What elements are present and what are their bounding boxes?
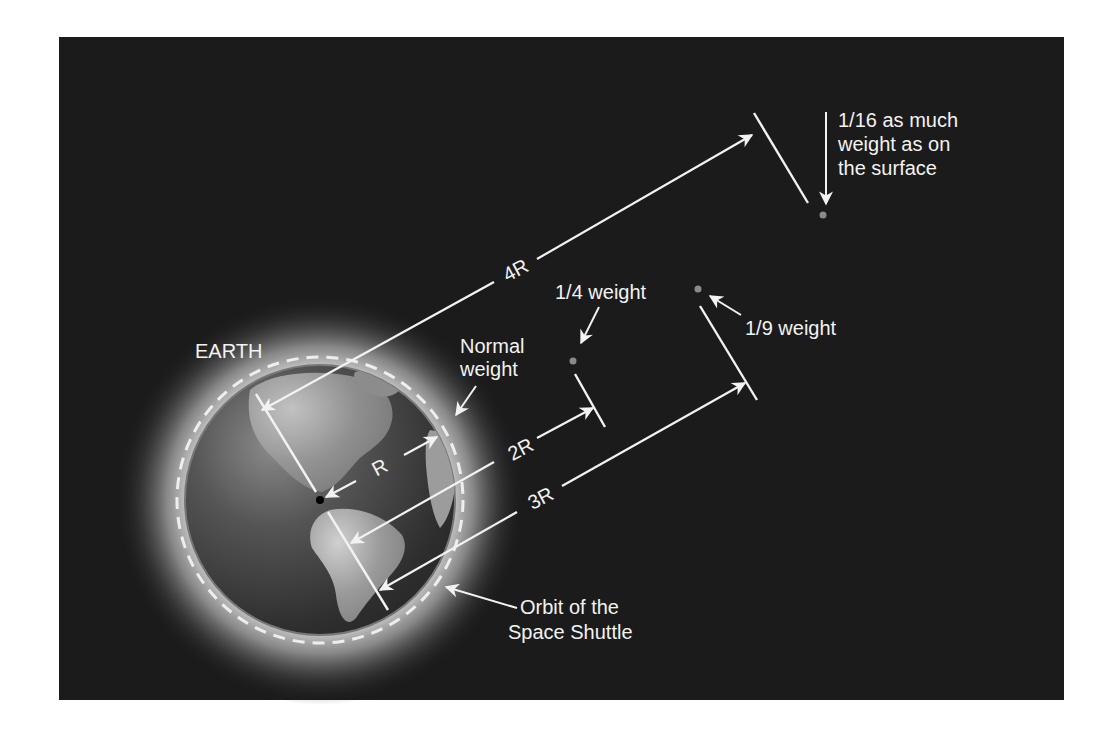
quarter-weight-label: 1/4 weight xyxy=(555,281,647,303)
ninth-weight-label: 1/9 weight xyxy=(745,317,837,339)
gravity-distance-diagram: R 2R 3R 4R EARTH Normal weight 1/4 weigh… xyxy=(0,0,1112,738)
mass-2r-dot xyxy=(570,358,577,365)
mass-4r-dot xyxy=(820,212,827,219)
earth-center-dot xyxy=(316,496,324,504)
earth-label: EARTH xyxy=(195,340,262,362)
mass-3r-dot xyxy=(695,286,702,293)
